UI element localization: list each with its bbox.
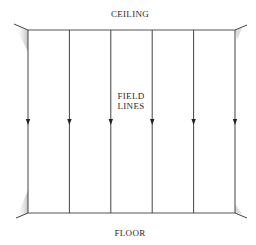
arrow-down-icon <box>191 119 195 125</box>
arrow-down-icon <box>26 119 30 125</box>
arrow-down-icon <box>109 119 113 125</box>
corner-shading <box>14 24 242 218</box>
field-lines-label: FIELD LINES <box>111 91 151 111</box>
corner-bottom-right <box>235 204 242 214</box>
arrow-down-icon <box>233 119 237 125</box>
field-lines-label-line1: FIELD <box>111 91 151 101</box>
diagram-canvas <box>0 0 256 245</box>
field-lines-label-line2: LINES <box>111 101 151 111</box>
floor-label: FLOOR <box>100 228 160 238</box>
corner-top-left <box>14 24 28 52</box>
ceiling-label: CEILING <box>100 9 160 19</box>
arrow-down-icon <box>150 119 154 125</box>
field-lines <box>26 30 237 213</box>
arrow-down-icon <box>67 119 71 125</box>
